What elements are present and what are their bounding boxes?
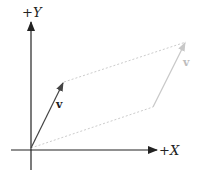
vector-v-translated [153, 43, 185, 107]
guide-top-dashed-line [64, 42, 186, 82]
y-axis-label: +Y [22, 5, 43, 20]
vector-v-original-label: v [55, 98, 63, 111]
x-axis-label: +X [159, 143, 180, 158]
vector-v-translated-label: v [182, 56, 190, 69]
guide-bottom-dashed-line [31, 107, 153, 148]
vector-v-original [31, 83, 63, 148]
vector-translation-diagram: +Y +X v v [0, 0, 201, 173]
